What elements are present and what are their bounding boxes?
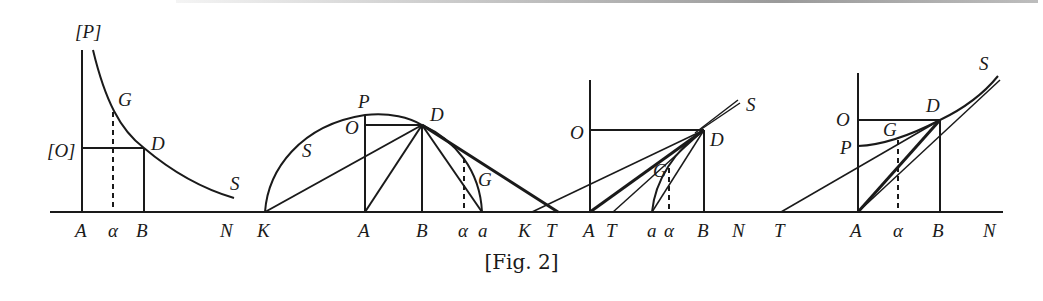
- tangent-TD: [781, 120, 940, 212]
- label-T: T: [546, 220, 558, 241]
- label-O: O: [570, 122, 584, 143]
- label-K: K: [256, 220, 271, 241]
- label-O: [O]: [47, 140, 76, 161]
- label-A: A: [581, 220, 595, 241]
- label-a: a: [647, 220, 657, 241]
- curve-KPD: [265, 114, 422, 212]
- label-N: N: [219, 220, 234, 241]
- chord-KD: [265, 125, 422, 212]
- panel-2: P O D S G K A B α a K T: [256, 91, 558, 241]
- label-alpha: α: [664, 220, 675, 241]
- label-P: [P]: [75, 21, 101, 42]
- label-S: S: [979, 53, 989, 74]
- curve-PGDS: [93, 50, 234, 198]
- label-B: B: [932, 220, 944, 241]
- label-A: A: [848, 220, 862, 241]
- label-D: D: [429, 104, 444, 125]
- panel-3: O D S G A T a α B N: [532, 80, 756, 241]
- label-alpha: α: [108, 220, 119, 241]
- label-A: A: [356, 220, 370, 241]
- label-B: B: [136, 220, 148, 241]
- label-A: A: [73, 220, 87, 241]
- figure-caption: [Fig. 2]: [0, 250, 1043, 274]
- label-P: P: [357, 91, 370, 112]
- label-B: B: [416, 220, 428, 241]
- label-S: S: [746, 94, 756, 115]
- label-G: G: [653, 160, 667, 181]
- label-D: D: [150, 133, 165, 154]
- label-P: P: [839, 137, 852, 158]
- label-alpha: α: [458, 220, 469, 241]
- chord-AD: [365, 125, 422, 212]
- label-S: S: [230, 173, 240, 194]
- label-N: N: [982, 220, 997, 241]
- label-D: D: [925, 95, 940, 116]
- curve-DS-b: [700, 103, 740, 130]
- chord-aD: [422, 125, 482, 212]
- line-AD: [590, 130, 704, 212]
- label-K2: K: [517, 220, 532, 241]
- label-a: a: [478, 220, 488, 241]
- label-G: G: [478, 169, 492, 190]
- panel-1: [P] [O] G D S A α B N: [47, 21, 240, 241]
- label-T: T: [606, 220, 618, 241]
- label-G: G: [118, 89, 132, 110]
- label-N: N: [731, 220, 746, 241]
- label-alpha: α: [893, 220, 904, 241]
- label-T: T: [774, 220, 786, 241]
- label-O: O: [836, 109, 850, 130]
- label-S: S: [302, 140, 312, 161]
- figure-2: [P] [O] G D S A α B N P O D S G: [0, 0, 1043, 301]
- label-G: G: [883, 119, 897, 140]
- label-B: B: [697, 220, 709, 241]
- label-O: O: [345, 117, 359, 138]
- label-D: D: [709, 129, 724, 150]
